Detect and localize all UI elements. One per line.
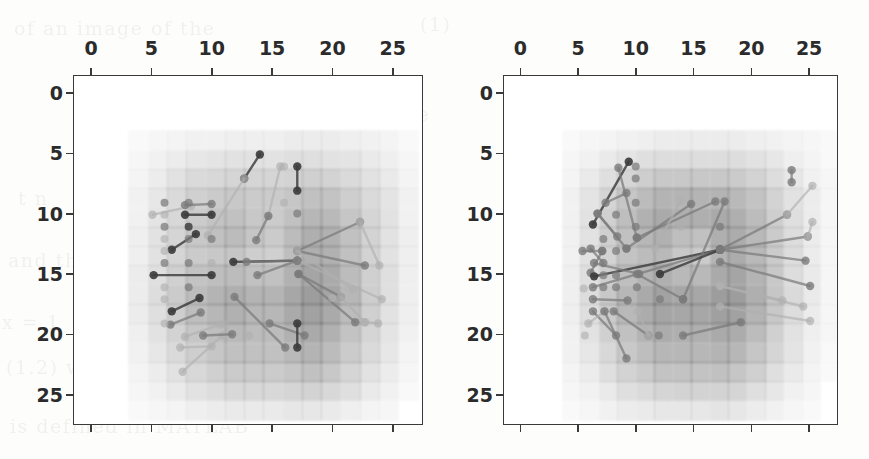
data-point-marker <box>589 295 597 303</box>
data-point-marker <box>161 319 169 327</box>
data-point-marker <box>195 294 203 302</box>
x-tick <box>151 68 153 75</box>
correspondence-segment <box>720 307 810 321</box>
data-point-marker <box>293 247 301 255</box>
data-point-marker <box>361 261 369 269</box>
data-point-marker <box>622 189 630 197</box>
data-point-marker <box>161 247 169 255</box>
data-point-marker <box>610 307 618 315</box>
data-point-marker <box>804 232 812 240</box>
data-point-marker <box>589 220 597 228</box>
data-point-marker <box>677 196 685 204</box>
data-point-marker <box>614 164 622 172</box>
data-point-marker <box>644 331 652 339</box>
data-point-marker <box>245 331 253 339</box>
data-point-marker <box>581 331 589 339</box>
data-point-marker <box>337 293 345 301</box>
x-tick <box>332 68 334 75</box>
data-point-marker <box>168 246 176 254</box>
x-tick-label: 5 <box>145 37 158 59</box>
data-point-marker <box>168 307 176 315</box>
data-point-marker <box>799 302 807 310</box>
correspondence-segment <box>598 214 627 249</box>
data-point-marker <box>199 331 207 339</box>
data-point-marker <box>580 284 588 292</box>
x-tick-label: 25 <box>796 37 822 59</box>
data-point-marker <box>622 354 630 362</box>
correspondence-segment <box>172 298 200 311</box>
data-point-marker <box>593 209 601 217</box>
data-point-marker <box>161 223 169 231</box>
y-tick <box>496 153 503 155</box>
data-point-marker <box>185 235 193 243</box>
data-point-marker <box>679 331 687 339</box>
data-point-marker <box>599 235 607 243</box>
y-tick <box>496 394 503 396</box>
data-point-marker <box>361 318 369 326</box>
data-point-marker <box>677 223 685 231</box>
panel-a-axes-box <box>73 75 423 425</box>
x-tick <box>211 68 213 75</box>
correspondence-segment <box>257 261 297 275</box>
y-tick-label: 0 <box>455 82 493 104</box>
data-point-marker <box>293 319 301 327</box>
data-point-marker <box>148 211 156 219</box>
data-point-marker <box>300 331 308 339</box>
data-point-marker <box>328 294 336 302</box>
data-point-marker <box>806 317 814 325</box>
data-point-marker <box>252 236 260 244</box>
data-point-marker <box>634 307 642 315</box>
correspondence-segment <box>247 261 298 262</box>
y-tick-label: 25 <box>455 384 493 406</box>
correspondence-segment <box>244 154 260 178</box>
data-point-marker <box>590 259 598 267</box>
data-point-marker <box>378 295 386 303</box>
data-point-marker <box>633 270 641 278</box>
data-point-marker <box>612 283 620 291</box>
data-point-marker <box>161 199 169 207</box>
x-tick <box>751 68 753 75</box>
data-point-marker <box>161 259 169 267</box>
x-tick-label: 20 <box>319 37 345 59</box>
x-tick-bottom <box>808 425 810 432</box>
x-tick-bottom <box>271 425 273 432</box>
data-point-marker <box>599 283 607 291</box>
panel-a-correspondence-overlay <box>74 76 423 425</box>
y-tick <box>496 334 503 336</box>
figure-two-panel-correspondence: 0510152025051015202505101520250510152025 <box>0 0 869 459</box>
x-tick <box>520 68 522 75</box>
x-tick-bottom <box>90 425 92 432</box>
data-point-marker <box>208 235 216 243</box>
data-point-marker <box>242 258 250 266</box>
x-tick-label: 15 <box>680 37 706 59</box>
correspondence-segment <box>655 200 680 248</box>
x-tick-bottom <box>635 425 637 432</box>
data-point-marker <box>716 282 724 290</box>
data-point-marker <box>737 318 745 326</box>
x-tick-label: 0 <box>514 37 527 59</box>
data-point-marker <box>622 244 630 252</box>
data-point-marker <box>375 261 383 269</box>
data-point-marker <box>280 163 288 171</box>
data-point-marker <box>293 186 301 194</box>
x-tick-bottom <box>693 425 695 432</box>
x-tick-bottom <box>751 425 753 432</box>
data-point-marker <box>293 210 301 218</box>
data-point-marker <box>787 178 795 186</box>
data-point-marker <box>207 271 215 279</box>
correspondence-segment <box>360 222 379 265</box>
panel-b-correspondence-overlay <box>504 76 838 425</box>
correspondence-segment <box>720 286 803 307</box>
data-point-marker <box>176 343 184 351</box>
data-point-marker <box>181 332 189 340</box>
x-tick-bottom <box>392 425 394 432</box>
data-point-marker <box>281 343 289 351</box>
data-point-marker <box>633 283 641 291</box>
data-point-marker <box>656 270 664 278</box>
y-tick-label: 20 <box>455 323 493 345</box>
data-point-marker <box>808 182 816 190</box>
data-point-marker <box>656 295 664 303</box>
y-tick-label: 10 <box>455 203 493 225</box>
data-point-marker <box>600 307 608 315</box>
data-point-marker <box>192 230 200 238</box>
